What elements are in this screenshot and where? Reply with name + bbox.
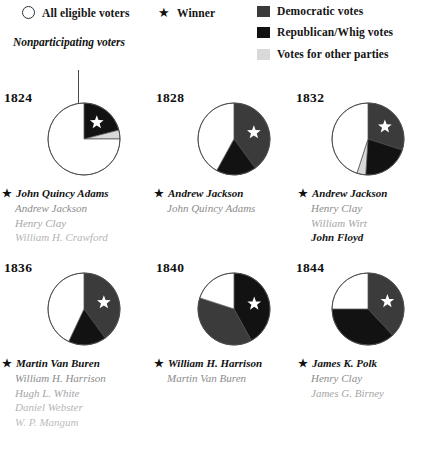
candidate-name: Andrew Jackson (312, 186, 388, 201)
legend-label-all-eligible-voters: All eligible voters (42, 7, 130, 19)
pie-chart-1828 (196, 101, 272, 177)
candidate-winner: ★Andrew Jackson (154, 186, 296, 201)
candidate-name: W. P. Mangum (15, 415, 79, 430)
year-label-1832: 1832 (296, 90, 324, 106)
candidate-other: John Floyd (298, 230, 425, 245)
candidate-name: John Quincy Adams (167, 201, 255, 216)
candidate-other: Martin Van Buren (154, 371, 296, 386)
circle-outline-icon (22, 6, 35, 19)
legend-item-republican-whig-votes: Republican/Whig votes (257, 26, 393, 38)
winner-star-icon: ★ (154, 187, 164, 201)
candidate-name: Martin Van Buren (167, 371, 246, 386)
pie-chart-1836 (46, 271, 122, 347)
candidate-name: John Quincy Adams (16, 186, 109, 201)
candidate-list-1840: ★William H. HarrisonMartin Van Buren (154, 356, 296, 386)
nonparticipating-voters-annotation: Nonparticipating voters (8, 36, 130, 50)
star-icon: ★ (158, 6, 170, 19)
republican-whig-swatch-icon (257, 27, 270, 38)
candidate-name: Martin Van Buren (16, 356, 100, 371)
winner-star-icon: ★ (2, 357, 12, 371)
candidate-winner: ★James K. Polk (298, 356, 425, 371)
winner-star-icon: ★ (154, 357, 164, 371)
candidate-other: W. P. Mangum (2, 415, 144, 430)
candidate-other: James G. Birney (298, 386, 425, 401)
year-label-1836: 1836 (4, 260, 32, 276)
candidate-winner: ★William H. Harrison (154, 356, 296, 371)
candidate-name: John Floyd (311, 230, 363, 245)
year-label-1824: 1824 (4, 90, 32, 106)
legend-item-winner: ★ Winner (158, 6, 215, 19)
election-pie-chart-grid: 1824★John Quincy AdamsAndrew JacksonHenr… (0, 86, 425, 453)
candidate-list-1832: ★Andrew JacksonHenry ClayWilliam WirtJoh… (298, 186, 425, 245)
candidate-winner: ★John Quincy Adams (2, 186, 144, 201)
legend-item-democratic-votes: Democratic votes (257, 5, 363, 17)
candidate-name: William H. Crawford (15, 230, 108, 245)
candidate-other: Henry Clay (298, 201, 425, 216)
candidate-other: William Wirt (298, 216, 425, 231)
pie-chart-1844 (330, 271, 406, 347)
year-label-1840: 1840 (156, 260, 184, 276)
legend-label-democratic-votes: Democratic votes (277, 5, 363, 17)
candidate-winner: ★Andrew Jackson (298, 186, 425, 201)
candidate-other: Hugh L. White (2, 386, 144, 401)
candidate-list-1828: ★Andrew JacksonJohn Quincy Adams (154, 186, 296, 216)
legend-item-all-eligible-voters: All eligible voters (22, 6, 130, 19)
year-label-1844: 1844 (296, 260, 324, 276)
pie-chart-1840 (196, 271, 272, 347)
candidate-name: William H. Harrison (15, 371, 106, 386)
candidate-name: William H. Harrison (168, 356, 262, 371)
legend-label-winner: Winner (177, 7, 215, 19)
candidate-name: William Wirt (311, 216, 367, 231)
candidate-name: Andrew Jackson (168, 186, 244, 201)
pie-slice-1844-nonparticipating (332, 273, 368, 309)
legend-label-other-parties-votes: Votes for other parties (277, 48, 389, 60)
candidate-winner: ★Martin Van Buren (2, 356, 144, 371)
candidate-name: Henry Clay (311, 201, 362, 216)
candidate-name: Daniel Webster (15, 400, 83, 415)
democratic-swatch-icon (257, 6, 270, 17)
candidate-other: William H. Crawford (2, 230, 144, 245)
winner-star-icon: ★ (2, 187, 12, 201)
candidate-other: Daniel Webster (2, 400, 144, 415)
candidate-list-1824: ★John Quincy AdamsAndrew JacksonHenry Cl… (2, 186, 144, 245)
candidate-other: Henry Clay (2, 216, 144, 231)
candidate-list-1836: ★Martin Van BurenWilliam H. HarrisonHugh… (2, 356, 144, 429)
pie-chart-1832 (330, 101, 406, 177)
winner-star-icon: ★ (298, 357, 308, 371)
candidate-name: Hugh L. White (15, 386, 79, 401)
other-parties-swatch-icon (257, 49, 270, 60)
legend-item-other-parties-votes: Votes for other parties (257, 48, 389, 60)
candidate-name: Henry Clay (15, 216, 66, 231)
pie-chart-1824 (46, 101, 122, 177)
year-label-1828: 1828 (156, 90, 184, 106)
candidate-name: James G. Birney (311, 386, 384, 401)
candidate-other: William H. Harrison (2, 371, 144, 386)
candidate-list-1844: ★James K. PolkHenry ClayJames G. Birney (298, 356, 425, 400)
candidate-other: Andrew Jackson (2, 201, 144, 216)
winner-star-icon: ★ (298, 187, 308, 201)
candidate-name: Andrew Jackson (15, 201, 87, 216)
candidate-other: Henry Clay (298, 371, 425, 386)
candidate-name: Henry Clay (311, 371, 362, 386)
legend-label-republican-whig-votes: Republican/Whig votes (277, 26, 393, 38)
candidate-other: John Quincy Adams (154, 201, 296, 216)
candidate-name: James K. Polk (312, 356, 377, 371)
